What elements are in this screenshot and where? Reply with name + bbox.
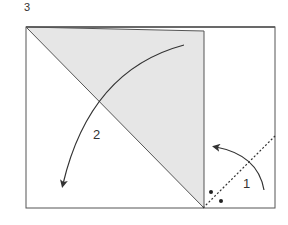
reference-dot <box>209 190 213 194</box>
origami-diagram: 1 2 <box>0 0 288 225</box>
arrow-1-label: 1 <box>243 176 250 191</box>
reference-dot <box>219 199 223 203</box>
arrow-2-label: 2 <box>93 127 100 142</box>
